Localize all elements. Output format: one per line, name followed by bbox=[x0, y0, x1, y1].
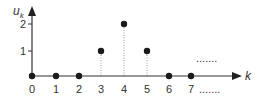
continuation-dots-lower: ....... bbox=[199, 83, 220, 95]
point-k6 bbox=[166, 73, 172, 79]
point-k7 bbox=[188, 73, 194, 79]
continuation-dots-upper: ....... bbox=[196, 52, 217, 64]
x-tick-labels: 0 1 2 3 4 5 6 7 bbox=[29, 83, 194, 95]
point-k1 bbox=[53, 73, 59, 79]
stems bbox=[101, 24, 147, 76]
x-tick-label-3: 3 bbox=[98, 83, 104, 95]
point-k2 bbox=[76, 73, 82, 79]
stem-chart: 1 2 uk k 0 1 2 3 4 5 6 7 ....... ....... bbox=[0, 0, 260, 98]
y-tick-label-1: 1 bbox=[20, 45, 26, 57]
point-k3 bbox=[98, 48, 104, 54]
x-tick-label-0: 0 bbox=[29, 83, 35, 95]
x-axis-label: k bbox=[245, 69, 252, 83]
y-axis-arrow-icon bbox=[28, 6, 36, 16]
x-tick-label-2: 2 bbox=[76, 83, 82, 95]
y-axis-label: uk bbox=[13, 4, 25, 20]
point-k0 bbox=[29, 73, 35, 79]
x-tick-label-6: 6 bbox=[166, 83, 172, 95]
data-points bbox=[29, 21, 194, 79]
point-k4 bbox=[121, 21, 127, 27]
x-tick-label-5: 5 bbox=[144, 83, 150, 95]
x-tick-label-4: 4 bbox=[121, 83, 127, 95]
x-tick-label-7: 7 bbox=[188, 83, 194, 95]
point-k5 bbox=[144, 48, 150, 54]
x-axis-arrow-icon bbox=[232, 72, 242, 80]
x-tick-label-1: 1 bbox=[53, 83, 59, 95]
